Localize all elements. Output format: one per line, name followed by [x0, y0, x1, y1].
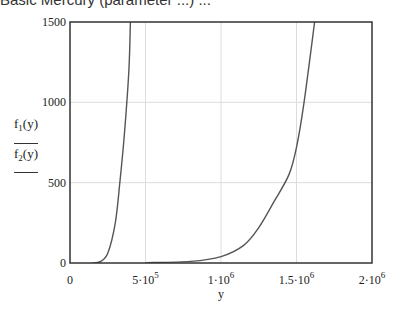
series-f2y-curve [146, 22, 315, 263]
y-tick-label: 0 [60, 256, 66, 270]
y-label-f1-trace-line [14, 143, 38, 144]
x-tick-label: 1.5·106 [279, 270, 315, 287]
series-f1y-curve [93, 22, 131, 263]
y-label-f2-trace-line [14, 172, 38, 173]
x-tick-label: 1·106 [208, 270, 235, 287]
x-tick-label: 0 [67, 273, 73, 287]
y-label-f2: f2(y) [14, 146, 38, 163]
plot-area: 05001000150005·1051·1061.5·1062·106y [0, 0, 401, 314]
y-tick-label: 1500 [42, 15, 66, 29]
x-tick-label: 5·105 [132, 270, 159, 287]
y-label-f1: f1(y) [14, 116, 38, 133]
y-tick-label: 500 [48, 176, 66, 190]
x-axis-label: y [218, 287, 224, 301]
y-tick-label: 1000 [42, 95, 66, 109]
x-tick-label: 2·106 [359, 270, 386, 287]
